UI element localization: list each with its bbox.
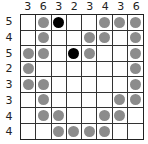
grid-cell[interactable] <box>128 15 143 31</box>
grid-cell[interactable] <box>128 62 143 78</box>
column-clue: 3 <box>20 0 36 14</box>
grid-cell[interactable] <box>36 62 51 78</box>
grid-cell[interactable] <box>67 93 82 109</box>
row-clue: 4 <box>0 30 18 46</box>
grid-cell[interactable] <box>21 31 36 47</box>
grid-cell[interactable] <box>52 93 67 109</box>
grid-cell[interactable] <box>113 108 128 124</box>
gray-disc-icon <box>38 94 49 105</box>
row-clue: 3 <box>0 93 18 109</box>
grid-cell[interactable] <box>82 46 97 62</box>
grid-cell[interactable] <box>97 77 112 93</box>
grid-cell[interactable] <box>97 124 112 140</box>
grid-cell[interactable] <box>21 15 36 31</box>
grid-cell[interactable] <box>128 124 143 140</box>
grid-cell[interactable] <box>21 62 36 78</box>
grid-cell[interactable] <box>128 93 143 109</box>
grid-cell[interactable] <box>21 46 36 62</box>
grid-cell[interactable] <box>97 46 112 62</box>
grid-cell[interactable] <box>52 77 67 93</box>
grid-cell[interactable] <box>82 77 97 93</box>
grid-cell[interactable] <box>36 124 51 140</box>
gray-disc-icon <box>130 48 141 59</box>
grid-cell[interactable] <box>67 108 82 124</box>
grid-cell[interactable] <box>97 108 112 124</box>
row-clue: 4 <box>0 109 18 125</box>
grid-cell[interactable] <box>82 15 97 31</box>
gray-disc-icon <box>38 48 49 59</box>
grid-cell[interactable] <box>113 77 128 93</box>
row-clues: 54523344 <box>0 14 18 140</box>
row-clue: 2 <box>0 61 18 77</box>
grid-cell[interactable] <box>36 108 51 124</box>
grid-cell[interactable] <box>36 77 51 93</box>
grid-cell[interactable] <box>21 77 36 93</box>
grid-cell[interactable] <box>128 77 143 93</box>
grid-cell[interactable] <box>52 31 67 47</box>
puzzle-grid <box>20 14 144 140</box>
grid-cell[interactable] <box>97 93 112 109</box>
column-clue: 3 <box>82 0 98 14</box>
grid-cell[interactable] <box>82 124 97 140</box>
grid-cell[interactable] <box>82 93 97 109</box>
grid-cell[interactable] <box>52 124 67 140</box>
grid-cell[interactable] <box>82 108 97 124</box>
gray-disc-icon <box>114 110 125 121</box>
column-clue: 6 <box>129 0 145 14</box>
grid-cell[interactable] <box>52 46 67 62</box>
grid-cell[interactable] <box>82 62 97 78</box>
grid-cell[interactable] <box>21 108 36 124</box>
grid-cell[interactable] <box>113 15 128 31</box>
gray-disc-icon <box>53 126 64 137</box>
grid-cell[interactable] <box>36 15 51 31</box>
gray-disc-icon <box>84 48 95 59</box>
grid-cell[interactable] <box>67 124 82 140</box>
column-clue: 2 <box>67 0 83 14</box>
grid-cell[interactable] <box>67 31 82 47</box>
black-disc-icon <box>53 17 64 28</box>
gray-disc-icon <box>23 63 34 74</box>
gray-disc-icon <box>114 94 125 105</box>
gray-disc-icon <box>23 48 34 59</box>
gray-disc-icon <box>53 110 64 121</box>
gray-disc-icon <box>99 126 110 137</box>
grid-cell[interactable] <box>52 15 67 31</box>
grid-cell[interactable] <box>97 15 112 31</box>
gray-disc-icon <box>99 17 110 28</box>
row-clue: 4 <box>0 124 18 140</box>
grid-cell[interactable] <box>128 31 143 47</box>
gray-disc-icon <box>68 126 79 137</box>
gray-disc-icon <box>130 79 141 90</box>
grid-cell[interactable] <box>97 31 112 47</box>
grid-cell[interactable] <box>67 46 82 62</box>
grid-cell[interactable] <box>36 93 51 109</box>
grid-cell[interactable] <box>67 62 82 78</box>
grid-cell[interactable] <box>82 31 97 47</box>
grid-cell[interactable] <box>36 46 51 62</box>
gray-disc-icon <box>23 79 34 90</box>
grid-cell[interactable] <box>113 46 128 62</box>
grid-cell[interactable] <box>113 62 128 78</box>
grid-cell[interactable] <box>97 62 112 78</box>
grid-cell[interactable] <box>21 124 36 140</box>
black-disc-icon <box>68 48 79 59</box>
grid-cell[interactable] <box>113 93 128 109</box>
gray-disc-icon <box>130 94 141 105</box>
column-clue: 4 <box>98 0 114 14</box>
grid-cell[interactable] <box>128 108 143 124</box>
grid-cell[interactable] <box>128 46 143 62</box>
grid-cell[interactable] <box>36 31 51 47</box>
grid-cell[interactable] <box>67 15 82 31</box>
row-clue: 5 <box>0 14 18 30</box>
grid-cell[interactable] <box>52 62 67 78</box>
grid-cell[interactable] <box>52 108 67 124</box>
grid-cell[interactable] <box>113 31 128 47</box>
grid-cell[interactable] <box>21 93 36 109</box>
grid-cell[interactable] <box>113 124 128 140</box>
column-clue: 3 <box>51 0 67 14</box>
grid-cell[interactable] <box>67 77 82 93</box>
gray-disc-icon <box>99 110 110 121</box>
gray-disc-icon <box>130 32 141 43</box>
gray-disc-icon <box>130 63 141 74</box>
gray-disc-icon <box>38 32 49 43</box>
